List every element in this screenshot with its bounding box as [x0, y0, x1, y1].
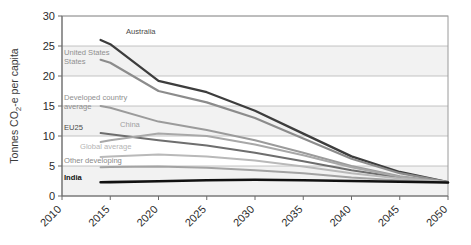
x-tick-label-2030: 2030: [231, 203, 257, 229]
series-label-united-states-line2: States: [64, 57, 86, 66]
y-axis-title: Tonnes CO2-e per capita: [8, 48, 23, 164]
series-label-global-average: Global average: [80, 142, 132, 151]
series-label-developed-country-average-line2: average: [64, 102, 91, 111]
series-label-eu25: EU25: [64, 123, 83, 132]
series-label-united-states: United States: [64, 48, 110, 57]
y-tick-label-30: 30: [43, 10, 55, 22]
y-tick-label-15: 15: [43, 100, 55, 112]
y-tick-label-20: 20: [43, 70, 55, 82]
series-label-china: China: [120, 120, 141, 129]
series-label-developed-country-average: Developed country: [64, 93, 128, 102]
x-tick-label-2045: 2045: [375, 203, 401, 229]
y-tick-label-10: 10: [43, 130, 55, 142]
x-tick-label-2035: 2035: [279, 203, 305, 229]
series-label-australia: Australia: [126, 27, 156, 36]
x-tick-label-2010: 2010: [38, 203, 64, 229]
x-tick-label-2040: 2040: [327, 203, 353, 229]
y-tick-label-25: 25: [43, 40, 55, 52]
y-tick-label-0: 0: [49, 190, 55, 202]
x-tick-label-2020: 2020: [134, 203, 160, 229]
chart-container: 051015202530Tonnes CO2-e per capita20102…: [0, 0, 471, 245]
x-tick-label-2050: 2050: [424, 203, 450, 229]
x-tick-label-2015: 2015: [86, 203, 112, 229]
series-label-other-developing: Other developing: [64, 156, 122, 165]
y-tick-label-5: 5: [49, 160, 55, 172]
series-label-india: India: [64, 173, 82, 182]
x-tick-label-2025: 2025: [182, 203, 208, 229]
line-chart: 051015202530Tonnes CO2-e per capita20102…: [0, 0, 471, 245]
